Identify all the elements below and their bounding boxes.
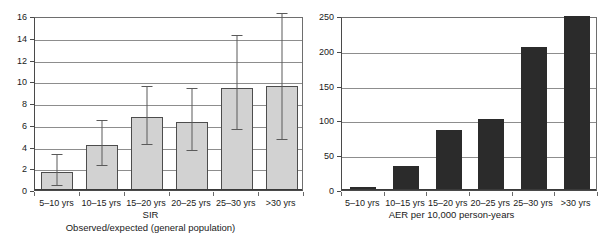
y-axis-tick-label: 6	[0, 121, 27, 130]
x-axis-tick-mark	[384, 192, 385, 196]
bar-group	[470, 18, 513, 190]
x-axis-tick-mark	[169, 192, 170, 196]
caption-title-aer: AER per 10,000 person-years	[301, 208, 602, 221]
error-bar-line	[281, 13, 282, 139]
y-axis-tick-label: 14	[0, 34, 27, 43]
x-axis-line-sir	[35, 189, 302, 190]
error-bar-line	[102, 120, 103, 165]
error-bar-cap-lower	[231, 129, 242, 130]
y-axis-tick-mark	[30, 17, 34, 18]
y-axis-tick-label: 8	[0, 100, 27, 109]
x-axis-ticks-sir	[34, 192, 303, 197]
y-axis-tick-label: 0	[0, 187, 27, 196]
y-axis-tick-label: 0	[301, 187, 334, 196]
error-bar-cap-upper	[231, 35, 242, 36]
figure-two-bar-charts: 0246810121416 5–10 yrs10–15 yrs15–20 yrs…	[0, 0, 602, 244]
x-axis-ticks-aer	[341, 192, 597, 197]
y-axis-tick-mark	[30, 39, 34, 40]
y-axis-tick-mark	[337, 52, 341, 53]
error-bar-cap-lower	[186, 150, 197, 151]
x-axis-tick-mark	[258, 192, 259, 196]
y-axis-tick-label: 100	[301, 117, 334, 126]
y-axis-tick-mark	[30, 82, 34, 83]
x-axis-tick-mark	[34, 192, 35, 196]
bar-group	[125, 18, 170, 190]
error-bar-cap-lower	[142, 144, 153, 145]
x-axis-tick-mark	[426, 192, 427, 196]
error-bar-line	[236, 35, 237, 129]
x-axis-tick-mark	[554, 192, 555, 196]
bar-group	[214, 18, 259, 190]
bar-group	[35, 18, 80, 190]
x-axis-tick-mark	[124, 192, 125, 196]
x-axis-tick-mark	[341, 192, 342, 196]
x-axis-line-aer	[342, 189, 596, 190]
bar-group	[427, 18, 470, 190]
bar-group	[385, 18, 428, 190]
bar	[393, 166, 419, 190]
y-axis-tick-mark	[30, 169, 34, 170]
y-axis-tick-mark	[30, 104, 34, 105]
error-bar-cap-lower	[52, 185, 63, 186]
error-bar-cap-upper	[186, 88, 197, 89]
bar-group	[80, 18, 125, 190]
y-axis-tick-mark	[337, 156, 341, 157]
bar-group	[259, 18, 304, 190]
bar-group	[342, 18, 385, 190]
bar	[478, 119, 504, 190]
y-axis-tick-label: 150	[301, 82, 334, 91]
error-bar-cap-upper	[52, 154, 63, 155]
bar-group	[555, 18, 598, 190]
error-bar-cap-upper	[97, 120, 108, 121]
y-axis-tick-mark	[337, 17, 341, 18]
x-axis-tick-mark	[79, 192, 80, 196]
caption-subtitle-sir: Observed/expected (general population)	[0, 221, 301, 234]
x-axis-tick-mark	[469, 192, 470, 196]
y-axis-tick-label: 250	[301, 13, 334, 22]
y-axis-tick-label: 2	[0, 165, 27, 174]
error-bar-cap-upper	[142, 86, 153, 87]
y-axis-tick-label: 4	[0, 143, 27, 152]
error-bar-line	[147, 86, 148, 144]
y-axis-tick-mark	[30, 61, 34, 62]
error-bar-cap-lower	[97, 165, 108, 166]
bar	[521, 47, 547, 190]
y-axis-tick-label: 200	[301, 47, 334, 56]
bar-group	[170, 18, 215, 190]
plot-area-aer	[341, 17, 597, 191]
y-axis-tick-label: 50	[301, 152, 334, 161]
bar	[564, 16, 590, 190]
bar-group	[513, 18, 556, 190]
bar	[436, 130, 462, 190]
plot-area-sir	[34, 17, 303, 191]
y-axis-tick-mark	[337, 121, 341, 122]
y-axis-tick-label: 10	[0, 78, 27, 87]
chart-panel-sir: 0246810121416 5–10 yrs10–15 yrs15–20 yrs…	[0, 0, 301, 244]
error-bar-cap-lower	[276, 139, 287, 140]
y-axis-tick-mark	[30, 148, 34, 149]
error-bar-line	[57, 154, 58, 186]
bar-series-aer	[342, 18, 596, 190]
y-axis-tick-label: 16	[0, 13, 27, 22]
y-axis-tick-label: 12	[0, 56, 27, 65]
error-bar-cap-upper	[276, 13, 287, 14]
error-bar-line	[191, 88, 192, 150]
caption-title-sir: SIR	[0, 208, 301, 221]
y-axis-tick-mark	[30, 126, 34, 127]
chart-panel-aer: 050100150200250 5–10 yrs10–15 yrs15–20 y…	[301, 0, 602, 244]
x-axis-tick-mark	[512, 192, 513, 196]
x-axis-tick-mark	[597, 192, 598, 196]
x-axis-tick-mark	[213, 192, 214, 196]
y-axis-tick-mark	[337, 87, 341, 88]
bar-series-sir	[35, 18, 302, 190]
